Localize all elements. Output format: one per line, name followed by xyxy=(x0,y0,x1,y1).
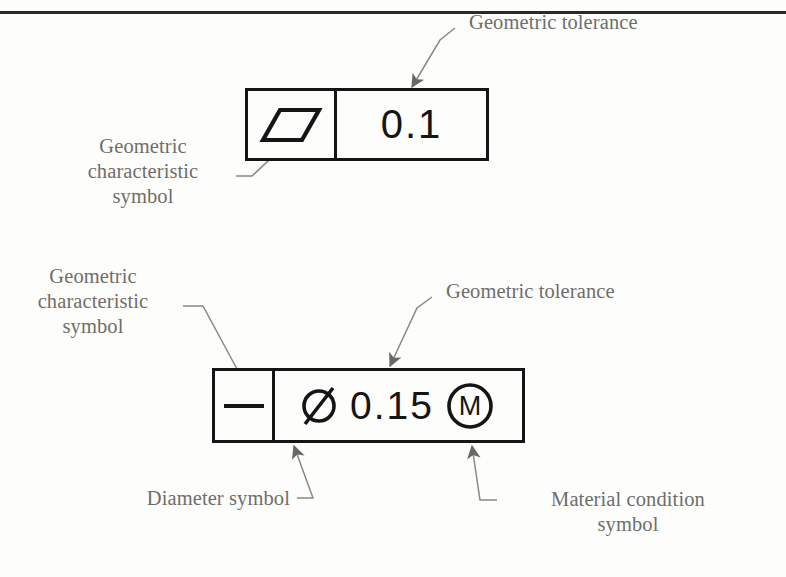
tolerance-value-cell: 0.1 xyxy=(334,91,486,158)
parallelism-symbol xyxy=(259,105,323,145)
diameter-symbol xyxy=(299,382,339,430)
leader-diameter xyxy=(294,446,313,498)
tolerance-value-cell: 0.15 M xyxy=(272,371,522,440)
material-condition-wrapper: M xyxy=(445,381,495,431)
flatness-symbol xyxy=(222,393,266,419)
tolerance-value-parallelism: 0.1 xyxy=(381,102,443,147)
leader-lines-layer xyxy=(0,0,786,577)
diagram-canvas: 0.1 0.15 M Geometric tolerance Geometri xyxy=(0,0,786,577)
geometric-characteristic-cell xyxy=(248,91,334,158)
material-condition-letter: M xyxy=(459,391,482,421)
geometric-characteristic-cell xyxy=(215,371,272,440)
feature-control-frame-parallelism: 0.1 xyxy=(245,88,489,161)
leader-tolerance-top xyxy=(412,28,455,87)
leader-tolerance-bottom xyxy=(390,297,432,366)
tolerance-value-flatness: 0.15 xyxy=(350,384,434,428)
feature-control-frame-flatness: 0.15 M xyxy=(212,368,525,443)
leader-material-condition xyxy=(472,446,497,500)
maximum-material-condition-symbol: M xyxy=(445,381,495,431)
